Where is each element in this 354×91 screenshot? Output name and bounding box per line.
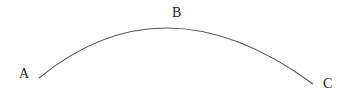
- arc-diagram: A B C: [0, 0, 354, 91]
- arc-curve: [39, 28, 313, 84]
- point-label-b: B: [172, 5, 181, 20]
- point-label-c: C: [323, 76, 332, 91]
- point-label-a: A: [19, 66, 30, 81]
